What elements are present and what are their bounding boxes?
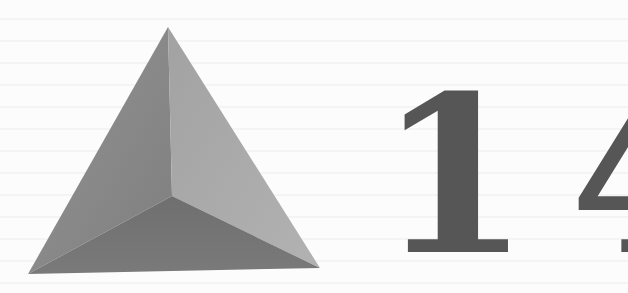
chapter-number: 14: [378, 66, 628, 284]
chapter-opener-page: 14: [0, 0, 628, 293]
tetrahedron-figure: [0, 0, 340, 293]
